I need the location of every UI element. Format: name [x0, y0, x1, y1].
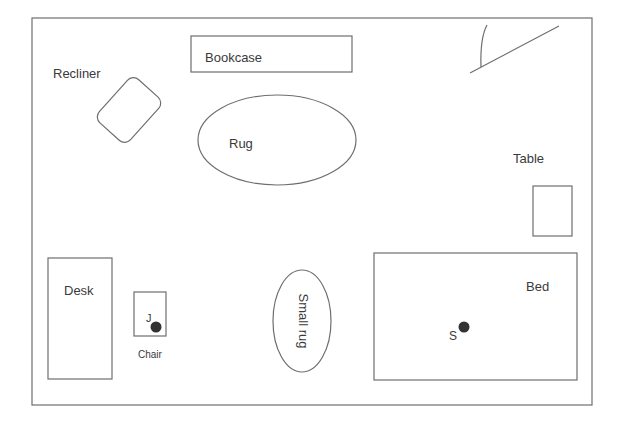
marker-dot-icon: [459, 322, 470, 333]
door-swing-arc: [481, 25, 487, 67]
bookcase-label: Bookcase: [205, 50, 262, 65]
bed-shape: [374, 253, 577, 380]
recliner: Recliner: [53, 66, 164, 146]
desk: Desk: [48, 258, 112, 379]
rug-shape: [198, 95, 356, 185]
rug: Rug: [198, 95, 356, 185]
table-label: Table: [513, 151, 544, 166]
small-rug: Small rug: [273, 270, 331, 372]
door: [470, 25, 559, 73]
desk-shape: [48, 258, 112, 379]
bed: Bed: [374, 253, 577, 380]
desk-label: Desk: [64, 283, 94, 298]
recliner-shape: [94, 74, 164, 145]
person-marker-s: S: [449, 322, 470, 344]
person-marker-j: J: [146, 312, 162, 333]
bed-label: Bed: [526, 279, 549, 294]
marker-j-label: J: [146, 312, 152, 324]
table-shape: [533, 186, 572, 236]
chair-label: Chair: [138, 349, 163, 360]
small-rug-label: Small rug: [296, 294, 311, 349]
marker-s-label: S: [449, 329, 457, 343]
floor-plan: Bookcase Recliner Rug Table Desk Chair J…: [0, 0, 624, 428]
table: Table: [513, 151, 572, 236]
marker-dot-icon: [151, 322, 162, 333]
bookcase: Bookcase: [191, 36, 352, 72]
room-outline: [32, 18, 592, 405]
rug-label: Rug: [229, 136, 253, 151]
recliner-label: Recliner: [53, 66, 101, 81]
